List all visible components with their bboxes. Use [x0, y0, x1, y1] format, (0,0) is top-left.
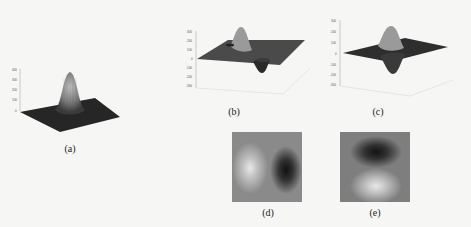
svg-text:300: 300 — [187, 30, 192, 34]
panel-b: 300 200 100 0 -100 -200 -300 (b) — [160, 0, 320, 140]
caption-a: (a) — [50, 143, 90, 154]
svg-text:400: 400 — [12, 68, 17, 72]
svg-text:200: 200 — [187, 39, 192, 43]
svg-text:100: 100 — [187, 48, 192, 52]
caption-c: (c) — [358, 106, 398, 117]
svg-text:0: 0 — [191, 57, 193, 61]
svg-text:100: 100 — [331, 41, 336, 45]
svg-text:200: 200 — [12, 88, 17, 92]
svg-text:100: 100 — [12, 98, 17, 102]
svg-text:-100: -100 — [330, 63, 336, 67]
caption-b: (b) — [214, 106, 254, 117]
svg-text:0: 0 — [15, 109, 17, 113]
svg-text:200: 200 — [331, 30, 336, 34]
caption-e: (e) — [355, 207, 395, 218]
gaussian-y-derivative-plot: 300 200 100 0 -100 -200 -300 — [310, 0, 471, 140]
panel-d — [232, 132, 302, 202]
svg-text:-200: -200 — [186, 75, 192, 79]
svg-text:-300: -300 — [330, 83, 336, 87]
svg-text:-200: -200 — [330, 73, 336, 77]
svg-text:0: 0 — [335, 52, 337, 56]
panel-c: 300 200 100 0 -100 -200 -300 (c) — [310, 0, 471, 140]
svg-text:300: 300 — [12, 78, 17, 82]
gaussian-surface-plot: 400 300 200 100 0 — [0, 0, 160, 160]
panel-e — [340, 132, 410, 202]
svg-text:-100: -100 — [186, 66, 192, 70]
svg-text:300: 300 — [331, 19, 336, 23]
caption-d: (d) — [248, 207, 288, 218]
panel-a: 400 300 200 100 0 (a) — [0, 0, 160, 160]
svg-text:-300: -300 — [186, 84, 192, 88]
gaussian-x-derivative-plot: 300 200 100 0 -100 -200 -300 — [160, 0, 320, 140]
